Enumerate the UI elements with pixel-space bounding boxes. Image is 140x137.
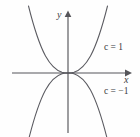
curve-label-c-positive: c = 1 [104, 43, 123, 53]
y-axis-arrow-icon [65, 11, 72, 18]
curve-c-negative-right [68, 73, 108, 137]
plot-canvas [0, 0, 140, 137]
curve-c-negative-left [29, 73, 69, 137]
curve-label-c-negative: c = −1 [104, 87, 128, 97]
curve-c-positive-left [29, 6, 69, 73]
x-axis-label: x [124, 75, 128, 85]
curve-family-figure: y x c = 1 c = −1 [0, 0, 140, 137]
y-axis-label: y [57, 10, 61, 20]
curve-c-positive-right [68, 6, 108, 73]
